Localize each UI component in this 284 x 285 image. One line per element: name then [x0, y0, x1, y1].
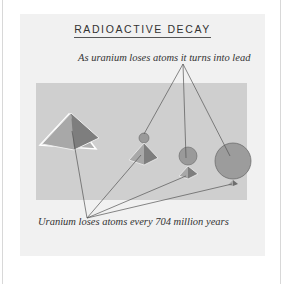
bottom-annotation: Uranium loses atoms every 704 million ye… [38, 216, 229, 227]
diagram-card: RADIOACTIVE DECAY As uranium loses atoms… [20, 14, 265, 256]
